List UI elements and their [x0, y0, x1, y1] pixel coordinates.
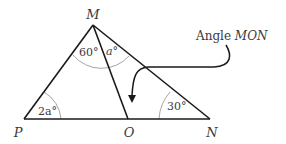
triangle-diagram: M P O N 2a° 60° a° 30° Angle MON [0, 0, 286, 144]
side-pm [24, 25, 93, 119]
angle-label-pmo: 60° [79, 46, 99, 59]
vertex-label-m: M [85, 7, 100, 22]
annotation-arrow [132, 45, 230, 96]
vertex-label-o: O [124, 125, 135, 140]
arrowhead-icon [128, 95, 136, 103]
vertex-label-n: N [205, 125, 218, 140]
angle-label-omn: a° [106, 45, 118, 58]
annotation-prefix: Angle [195, 29, 235, 43]
angle-label-n: 30° [167, 100, 187, 113]
annotation-angle-name: MON [234, 29, 268, 43]
angle-label-p: 2a° [38, 105, 57, 118]
vertex-label-p: P [13, 125, 23, 140]
annotation-label: Angle MON [195, 29, 268, 43]
